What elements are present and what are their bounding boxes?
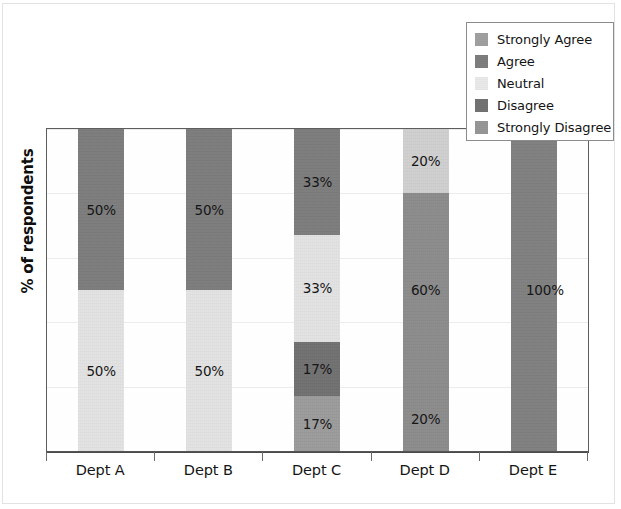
legend-color-swatch (475, 33, 488, 46)
bar-segment-value-label: 60% (411, 282, 440, 298)
bar-segment[interactable]: 50% (78, 129, 124, 290)
legend-item-strongly-disagree[interactable]: Strongly Disagree (475, 116, 613, 138)
bar-segment-value-label: 33% (303, 280, 332, 296)
bar-stack[interactable]: 50%50% (78, 129, 124, 451)
y-axis-title: % of respondents (19, 121, 37, 321)
x-axis-tick (587, 452, 588, 461)
x-axis-tick (262, 452, 263, 461)
bar-segment[interactable]: 33% (294, 235, 340, 341)
x-axis-tick-label: Dept D (371, 462, 479, 478)
bar-stack[interactable]: 100% (511, 129, 557, 451)
legend: Strongly AgreeAgreeNeutralDisagreeStrong… (466, 22, 614, 141)
legend-item-label: Strongly Disagree (497, 120, 611, 135)
bar-segment-value-label: 50% (86, 363, 115, 379)
x-axis-line-inner (46, 452, 589, 453)
x-axis-tick-label: Dept B (154, 462, 262, 478)
bar-stack[interactable]: 50%50% (186, 129, 232, 451)
bar-segment[interactable]: 60% (403, 193, 449, 386)
bar-segment[interactable]: 17% (294, 396, 340, 451)
bar-segment[interactable]: 50% (78, 290, 124, 451)
bar-segment-value-label: 20% (411, 411, 440, 427)
x-axis-tick-label: Dept A (46, 462, 154, 478)
legend-item-label: Strongly Agree (497, 32, 592, 47)
bar-segment[interactable]: 33% (294, 129, 340, 235)
bar-segment-value-label: 50% (195, 363, 224, 379)
legend-color-swatch (475, 77, 488, 90)
legend-item-strongly-agree[interactable]: Strongly Agree (475, 28, 613, 50)
bar-segment[interactable]: 50% (186, 290, 232, 451)
legend-item-label: Neutral (497, 76, 544, 91)
bar-group: 50%50% (47, 129, 155, 451)
bar-stack[interactable]: 20%60%20% (403, 129, 449, 451)
bar-segment-value-label: 100% (526, 282, 564, 298)
x-axis-tick (46, 452, 47, 461)
bar-group: 100% (480, 129, 588, 451)
bar-stack[interactable]: 33%33%17%17% (294, 129, 340, 451)
bar-segment-value-label: 50% (195, 202, 224, 218)
bar-group: 50%50% (155, 129, 263, 451)
bar-segment[interactable]: 17% (294, 342, 340, 397)
bar-segment-value-label: 17% (303, 361, 332, 377)
bar-segment[interactable]: 50% (186, 129, 232, 290)
legend-color-swatch (475, 55, 488, 68)
legend-color-swatch (475, 99, 488, 112)
legend-color-swatch (475, 121, 488, 134)
bar-group: 20%60%20% (372, 129, 480, 451)
x-axis-tick-label: Dept C (262, 462, 370, 478)
bar-segment-value-label: 17% (303, 416, 332, 432)
bar-segment[interactable]: 20% (403, 387, 449, 451)
bars-layer: 50%50%50%50%33%33%17%17%20%60%20%100% (47, 129, 588, 451)
bar-group: 33%33%17%17% (263, 129, 371, 451)
legend-item-disagree[interactable]: Disagree (475, 94, 613, 116)
x-axis-tick-label: Dept E (479, 462, 587, 478)
x-axis-tick (479, 452, 480, 461)
x-axis-tick-labels: Dept ADept BDept CDept DDept E (46, 462, 589, 488)
legend-item-agree[interactable]: Agree (475, 50, 613, 72)
x-axis-tick (371, 452, 372, 461)
legend-item-label: Disagree (497, 98, 554, 113)
x-axis-tick (154, 452, 155, 461)
legend-item-label: Agree (497, 54, 535, 69)
bar-segment-value-label: 50% (86, 202, 115, 218)
bar-segment-value-label: 20% (411, 153, 440, 169)
bar-segment[interactable]: 100% (511, 129, 557, 451)
bar-segment-value-label: 33% (303, 174, 332, 190)
legend-item-neutral[interactable]: Neutral (475, 72, 613, 94)
stacked-bar-chart: % of respondents 50%50%50%50%33%33%17%17… (0, 0, 621, 509)
bar-segment[interactable]: 20% (403, 129, 449, 193)
